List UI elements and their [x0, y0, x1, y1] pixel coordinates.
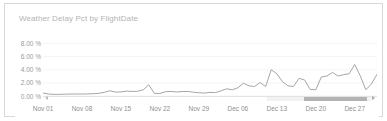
- y-axis-tick-label: 6.00 %: [15, 53, 41, 60]
- x-axis-tick-label: Dec 27: [344, 105, 365, 113]
- chart-title: Weather Delay Pct by FlightDate: [19, 14, 138, 24]
- widget-border: Weather Delay Pct by FlightDate 8.00 %6.…: [4, 3, 383, 117]
- chart-panel: Weather Delay Pct by FlightDate 8.00 %6.…: [15, 11, 379, 117]
- scroll-right-arrow-icon[interactable]: [372, 96, 375, 100]
- x-axis-tick-label: Nov 01: [33, 105, 54, 113]
- x-axis-tick-label: Dec 06: [228, 105, 249, 113]
- chart-widget: Weather Delay Pct by FlightDate 8.00 %6.…: [0, 0, 387, 121]
- scroll-left-arrow-icon[interactable]: [45, 96, 48, 100]
- plot-area: [43, 37, 377, 96]
- y-axis: 8.00 %6.00 %4.00 %2.00 %0.00 %: [15, 37, 41, 96]
- range-scrollbar[interactable]: [267, 95, 377, 102]
- scrollbar-thumb[interactable]: [304, 97, 366, 101]
- y-axis-tick-label: 0.00 %: [15, 93, 41, 100]
- data-series-line: [43, 65, 377, 95]
- x-axis-tick-label: Nov 22: [150, 105, 171, 113]
- x-axis-tick-label: Nov 08: [72, 105, 93, 113]
- y-axis-tick-label: 8.00 %: [15, 40, 41, 47]
- y-axis-tick-label: 2.00 %: [15, 79, 41, 86]
- x-axis-tick-label: Nov 29: [189, 105, 210, 113]
- x-axis-tick-label: Dec 20: [305, 105, 326, 113]
- x-axis-tick-label: Dec 13: [266, 105, 287, 113]
- x-axis-tick-label: Nov 15: [111, 105, 132, 113]
- y-axis-tick-label: 4.00 %: [15, 66, 41, 73]
- line-chart-svg: [43, 37, 377, 96]
- x-axis: Nov 01Nov 08Nov 15Nov 22Nov 29Dec 06Dec …: [43, 105, 377, 115]
